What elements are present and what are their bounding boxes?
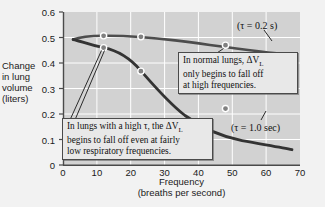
annotation-normal-lungs-line1-text: In normal lungs, ΔV: [183, 55, 259, 65]
annotation-high-tau-line1: In lungs with a high τ, the ΔVL: [67, 121, 209, 135]
annotation-high-tau-line1-text: In lungs with a high τ, the ΔV: [67, 121, 178, 131]
y-tick-label-0.4: 0.4: [33, 58, 55, 69]
y-axis-title-line2: in lung: [2, 71, 54, 82]
y-tick-label-0.3: 0.3: [33, 84, 55, 95]
curve-label-tau-fast: (τ = 0.2 s): [237, 20, 277, 31]
annotation-normal-lungs-line3: at high frequencies.: [183, 80, 294, 91]
annotation-normal-lungs-line2: only begins to fall off: [183, 69, 294, 80]
annotation-normal-lungs-line1: In normal lungs, ΔVL: [183, 55, 294, 69]
annotation-normal-lungs: In normal lungs, ΔVL only begins to fall…: [178, 52, 298, 94]
annotation-normal-lungs-subscript: L: [259, 60, 263, 68]
y-axis-title-line4: (liters): [2, 93, 54, 104]
annotation-high-tau-line3: low respiratory frequencies.: [67, 146, 209, 157]
y-tick-label-0.5: 0.5: [33, 33, 55, 44]
y-tick-label-0.6: 0.6: [33, 7, 55, 18]
annotation-high-tau-subscript: L: [178, 126, 182, 134]
y-tick-label-0.2: 0.2: [33, 109, 55, 120]
x-axis-title-line1: Frequency: [63, 176, 300, 187]
annotation-high-tau: In lungs with a high τ, the ΔVL begins t…: [62, 118, 213, 160]
y-tick-label-0.1: 0.1: [33, 135, 55, 146]
curve-label-tau-slow: (τ = 1.0 sec): [231, 122, 280, 133]
x-axis-title-line2: (breaths per second): [63, 187, 300, 198]
x-axis-title: Frequency (breaths per second): [63, 176, 300, 198]
annotation-high-tau-line2: begins to fall off even at fairly: [67, 135, 209, 146]
y-tick-label-0: 0: [33, 160, 55, 171]
